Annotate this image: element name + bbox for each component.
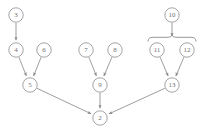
node-label: 8 bbox=[113, 46, 117, 54]
graph-node-13[interactable]: 13 bbox=[165, 78, 179, 92]
graph-node-12[interactable]: 12 bbox=[180, 43, 194, 57]
graph-edge bbox=[104, 57, 112, 76]
graph-edge bbox=[160, 57, 168, 76]
edges-layer bbox=[16, 23, 184, 114]
node-label: 11 bbox=[154, 46, 161, 54]
graph-node-7[interactable]: 7 bbox=[79, 43, 93, 57]
graph-node-10[interactable]: 10 bbox=[165, 8, 179, 22]
node-label: 4 bbox=[14, 46, 18, 54]
graph-edge bbox=[89, 57, 96, 76]
node-label: 3 bbox=[14, 11, 18, 19]
node-label: 9 bbox=[98, 81, 102, 89]
nodes-layer: 3465789101112132 bbox=[9, 8, 194, 125]
node-label: 2 bbox=[98, 114, 102, 122]
brace-connector bbox=[148, 23, 196, 42]
graph-edge bbox=[109, 88, 165, 114]
graph-node-6[interactable]: 6 bbox=[37, 43, 51, 57]
node-label: 12 bbox=[184, 46, 192, 54]
graph-node-4[interactable]: 4 bbox=[9, 43, 23, 57]
graph-edge bbox=[34, 57, 41, 76]
graph-edge bbox=[37, 88, 91, 113]
graph-node-3[interactable]: 3 bbox=[9, 8, 23, 22]
graph-node-9[interactable]: 9 bbox=[93, 78, 107, 92]
node-label: 10 bbox=[169, 11, 177, 19]
node-label: 7 bbox=[84, 46, 88, 54]
graph-edge bbox=[19, 57, 26, 76]
graph-node-5[interactable]: 5 bbox=[23, 78, 37, 92]
curly-brace-icon bbox=[148, 35, 196, 42]
graph-edge bbox=[176, 57, 184, 76]
graph-node-2[interactable]: 2 bbox=[93, 111, 107, 125]
graph-diagram: 3465789101112132 bbox=[0, 0, 205, 132]
node-label: 13 bbox=[169, 81, 177, 89]
graph-node-8[interactable]: 8 bbox=[108, 43, 122, 57]
node-label: 6 bbox=[42, 46, 46, 54]
graph-node-11[interactable]: 11 bbox=[150, 43, 164, 57]
graph-canvas: 3465789101112132 bbox=[0, 0, 205, 132]
node-label: 5 bbox=[28, 81, 32, 89]
